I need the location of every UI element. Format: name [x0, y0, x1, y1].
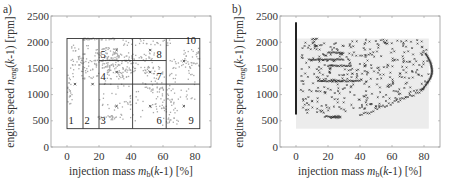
y-tick-label: 2500 — [27, 10, 50, 22]
region-label: 8 — [157, 49, 162, 60]
x-tick-label: 60 — [387, 150, 399, 162]
region-label: 1 — [69, 115, 74, 126]
panel-b-tag: b) — [232, 3, 242, 16]
x-tick-label: 60 — [158, 150, 170, 162]
x-tick-label: 40 — [355, 150, 367, 162]
region-label: 5 — [101, 49, 106, 60]
y-tick-label: 1000 — [256, 88, 279, 100]
panel-a-tag: a) — [3, 3, 12, 16]
y-tick-label: 2000 — [256, 36, 279, 48]
x-tick-label: 40 — [126, 150, 138, 162]
panel-b-y-label: engine speed neng(k-1) [rpm] — [233, 16, 247, 147]
panel-a: a) 12345678910 0204060800500100015002000… — [3, 3, 211, 179]
panel-a-x-label: injection mass mb(k-1) [%] — [69, 165, 193, 179]
region-label: 4 — [101, 71, 107, 82]
region-label: 9 — [189, 115, 194, 126]
y-tick-label: 0 — [273, 141, 279, 153]
region-label: 3 — [101, 115, 106, 126]
y-tick-label: 1500 — [27, 62, 50, 74]
x-tick-label: 20 — [94, 150, 106, 162]
panel-b-x-label: injection mass mb(k-1) [%] — [298, 165, 422, 179]
panel-a-y-label: engine speed neng(k-1) [rpm] — [4, 16, 18, 147]
region-label: 10 — [185, 35, 196, 46]
x-tick-label: 80 — [419, 150, 431, 162]
figure: a) 12345678910 0204060800500100015002000… — [0, 0, 456, 183]
y-tick-label: 500 — [262, 114, 279, 126]
x-tick-label: 0 — [293, 150, 299, 162]
x-tick-label: 20 — [323, 150, 335, 162]
y-tick-label: 1500 — [256, 62, 279, 74]
y-tick-label: 2000 — [27, 36, 50, 48]
y-tick-label: 0 — [44, 141, 50, 153]
x-tick-label: 0 — [64, 150, 70, 162]
y-tick-label: 1000 — [27, 88, 50, 100]
x-tick-label: 80 — [190, 150, 202, 162]
region-label: 7 — [157, 71, 162, 82]
panel-b: b) 02040608005001000150020002500 engine … — [232, 3, 440, 179]
y-tick-label: 2500 — [256, 10, 279, 22]
region-label: 2 — [85, 115, 90, 126]
region-label: 6 — [157, 115, 162, 126]
y-tick-label: 500 — [33, 114, 50, 126]
